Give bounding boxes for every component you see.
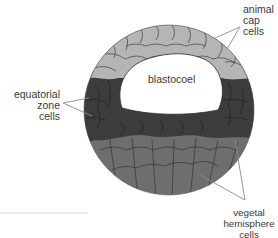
vegetal-label-line: vegetal (220, 207, 278, 218)
blastocoel-label: blastocoel (148, 73, 195, 85)
embryo-body (80, 20, 260, 210)
equatorial-zone-label: equatorial zone cells (2, 89, 60, 122)
animal-cap-label-line: cells (243, 26, 274, 37)
equatorial-label-line: cells (2, 111, 60, 122)
vegetal-label-line: cells (220, 229, 278, 238)
vegetal-hemisphere-label: vegetal hemisphere cells (220, 207, 278, 238)
vegetal-label-line: hemisphere (220, 218, 278, 229)
animal-cap-label: animal cap cells (243, 4, 274, 37)
